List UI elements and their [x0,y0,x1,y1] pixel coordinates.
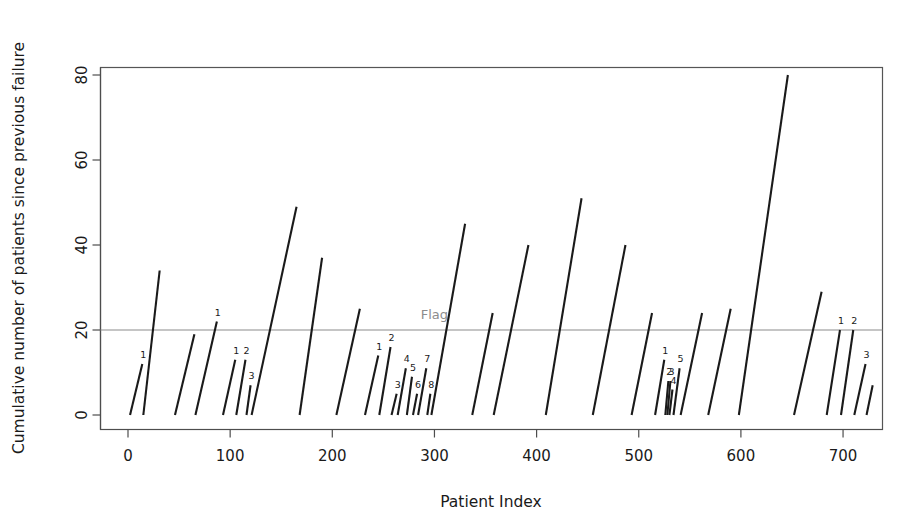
x-tick-label: 100 [216,447,245,465]
x-axis-title: Patient Index [440,493,542,511]
x-tick-label: 400 [522,447,551,465]
x-tick-label: 700 [829,447,858,465]
y-tick-label: 40 [73,235,91,254]
x-tick-label: 200 [318,447,347,465]
segment-number-label: 2 [243,345,249,356]
segment-number-label: 1 [140,349,146,360]
segment-number-label: 1 [838,315,844,326]
x-tick-label: 500 [624,447,653,465]
segment-number-label: 1 [662,345,668,356]
segment-number-label: 1 [376,341,382,352]
chart-canvas: 020406080 0100200300400500600700 Flag 11… [0,0,903,527]
y-axis-title: Cumulative number of patients since prev… [10,42,28,454]
segment-number-label: 2 [389,332,395,343]
x-tick-label: 0 [123,447,133,465]
x-tick-label: 300 [420,447,449,465]
x-tick-label: 600 [727,447,756,465]
segment-number-label: 2 [851,315,857,326]
segment-number-label: 4 [404,353,410,364]
y-tick-label: 0 [73,410,91,420]
segment-number-label: 3 [863,349,869,360]
segment-number-label: 5 [678,353,684,364]
flag-threshold-label: Flag [421,307,448,322]
segment-number-label: 7 [424,353,430,364]
chart-figure: 020406080 0100200300400500600700 Flag 11… [0,0,903,527]
segment-number-label: 5 [410,362,416,373]
segment-number-label: 1 [215,307,221,318]
segment-number-label: 6 [415,379,421,390]
segment-number-label: 1 [233,345,239,356]
segment-number-label: 3 [249,370,255,381]
y-tick-label: 20 [73,320,91,339]
segment-number-label: 8 [428,379,434,390]
y-tick-label: 80 [73,65,91,84]
segment-number-label: 3 [395,379,401,390]
segment-number-label: 4 [670,375,676,386]
figure-background [0,0,903,527]
y-tick-label: 60 [73,150,91,169]
